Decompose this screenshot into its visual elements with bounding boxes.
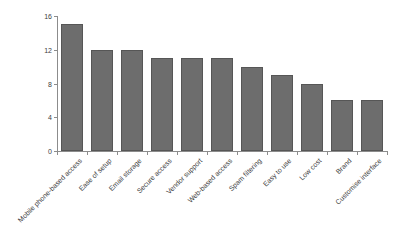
y-axis-tick (54, 50, 57, 51)
bar-4 (151, 58, 173, 151)
bar-10 (331, 100, 353, 151)
bar-9 (301, 84, 323, 152)
y-axis-tick-label: 8 (38, 81, 52, 88)
bar-11 (361, 100, 383, 151)
bar-6 (211, 58, 233, 151)
bar-chart: 0481216Mobile phone-based accessEase of … (0, 0, 408, 250)
x-axis-tick (297, 152, 298, 155)
bar-1 (61, 24, 83, 151)
x-axis-line (55, 151, 388, 152)
x-axis-category-label: Low cost (298, 157, 323, 182)
x-axis-tick (387, 152, 388, 155)
x-axis-category-label: Easy to use (262, 157, 294, 189)
bar-7 (241, 67, 263, 151)
bar-5 (181, 58, 203, 151)
x-axis-tick (147, 152, 148, 155)
y-axis-tick (54, 84, 57, 85)
x-axis-category-label: Mobile phone-based access (16, 157, 83, 224)
x-axis-tick (87, 152, 88, 155)
x-axis-tick (327, 152, 328, 155)
y-axis-tick (54, 16, 57, 17)
y-axis-tick-label: 16 (38, 13, 52, 20)
y-axis-tick-label: 12 (38, 47, 52, 54)
bar-3 (121, 50, 143, 151)
x-axis-tick (57, 152, 58, 155)
x-axis-tick (177, 152, 178, 155)
x-axis-tick (267, 152, 268, 155)
y-axis-tick-label: 0 (38, 148, 52, 155)
x-axis-category-label: Brand (335, 157, 354, 176)
bar-8 (271, 75, 293, 151)
plot-area: 0481216Mobile phone-based accessEase of … (0, 0, 408, 250)
x-axis-tick (207, 152, 208, 155)
bar-2 (91, 50, 113, 151)
x-axis-tick (117, 152, 118, 155)
y-axis-tick-label: 4 (38, 114, 52, 121)
x-axis-tick (357, 152, 358, 155)
x-axis-tick (237, 152, 238, 155)
y-axis-line (57, 16, 58, 152)
y-axis-tick (54, 117, 57, 118)
